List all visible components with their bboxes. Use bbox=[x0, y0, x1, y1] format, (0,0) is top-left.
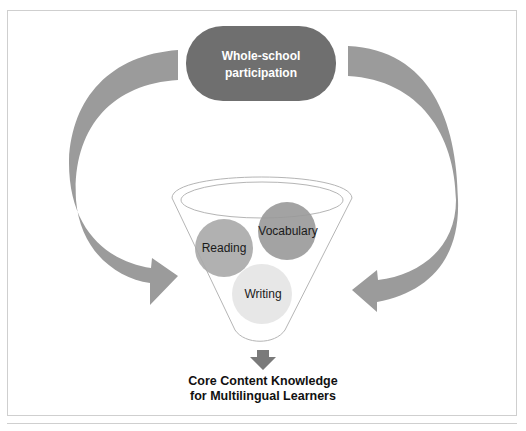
right-curved-arrow bbox=[348, 46, 458, 312]
vocabulary-label: Vocabulary bbox=[258, 224, 317, 238]
down-arrow-icon bbox=[250, 350, 276, 370]
output-line-2: for Multilingual Learners bbox=[0, 389, 526, 404]
output-line-1: Core Content Knowledge bbox=[0, 374, 526, 389]
pill-line-1: Whole-school bbox=[222, 49, 301, 63]
diagram-canvas: Whole-school participation Reading Vocab… bbox=[0, 0, 526, 431]
reading-label: Reading bbox=[202, 241, 247, 255]
writing-label: Writing bbox=[244, 287, 281, 301]
whole-school-pill bbox=[186, 26, 336, 101]
left-curved-arrow bbox=[69, 50, 178, 305]
pill-line-2: participation bbox=[225, 66, 297, 80]
